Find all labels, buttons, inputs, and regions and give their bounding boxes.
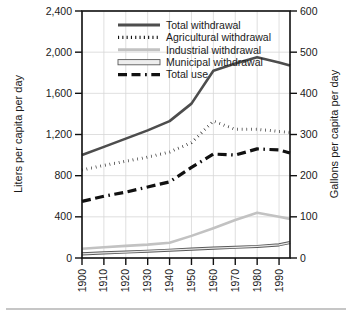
right-tick-label: 500 <box>300 46 318 58</box>
left-tick-label: 1,200 <box>46 128 72 140</box>
x-tick-label: 1910 <box>97 269 109 293</box>
right-tick-label: 200 <box>300 169 318 181</box>
right-tick-label: 100 <box>300 210 318 222</box>
legend-item-label: Municipal withdrawal <box>166 56 263 68</box>
right-tick-label: 0 <box>300 252 306 264</box>
right-tick-label: 400 <box>300 87 318 99</box>
left-tick-label: 2,400 <box>46 5 72 17</box>
x-tick-label: 1920 <box>119 269 131 293</box>
x-tick-label: 1930 <box>141 269 153 293</box>
left-axis-title: Liters per capita per day <box>12 74 24 193</box>
left-tick-label: 1,600 <box>46 87 72 99</box>
x-tick-label: 1900 <box>76 269 88 293</box>
left-tick-label: 2,000 <box>46 46 72 58</box>
x-tick-label: 1990 <box>273 269 285 293</box>
right-axis-title: Gallons per capita per day <box>328 69 340 198</box>
left-tick-label: 400 <box>54 210 72 222</box>
legend-item-label: Agricultural withdrawal <box>166 31 271 43</box>
legend-item-label: Total use <box>166 68 208 80</box>
legend-item-label: Industrial withdrawal <box>166 44 261 56</box>
chart-figure: 04008001,2001,6002,0002,400 010020030040… <box>0 0 352 320</box>
legend-swatch-outlined-bar <box>118 60 160 65</box>
x-tick-label: 1980 <box>251 269 263 293</box>
left-tick-label: 800 <box>54 169 72 181</box>
chart-svg: 04008001,2001,6002,0002,400 010020030040… <box>0 0 352 320</box>
legend-item-label: Total withdrawal <box>166 19 241 31</box>
right-tick-label: 300 <box>300 128 318 140</box>
x-tick-label: 1950 <box>185 269 197 293</box>
left-tick-label: 0 <box>66 252 72 264</box>
x-tick-label: 1960 <box>207 269 219 293</box>
x-tick-label: 1940 <box>163 269 175 293</box>
x-tick-label: 1970 <box>229 269 241 293</box>
right-tick-label: 600 <box>300 5 318 17</box>
